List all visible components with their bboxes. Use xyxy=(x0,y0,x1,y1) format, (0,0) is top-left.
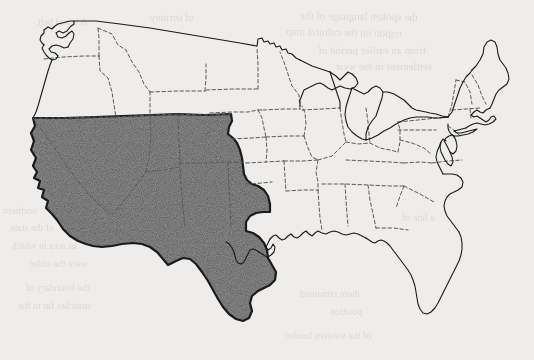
map-page: the spoken language of theregion on the … xyxy=(0,0,534,360)
us-map-figure xyxy=(0,0,534,360)
paper-grain-overlay xyxy=(0,0,534,360)
